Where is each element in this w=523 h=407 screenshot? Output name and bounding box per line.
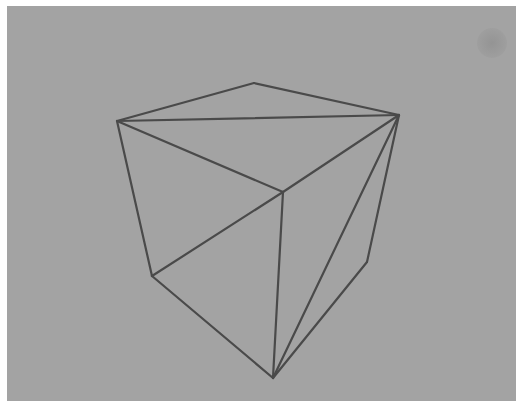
3d-viewport[interactable] xyxy=(7,6,516,401)
cube-edge xyxy=(152,192,283,276)
cube-edge xyxy=(273,115,399,378)
cube-edge xyxy=(254,83,399,115)
cube-edge xyxy=(273,192,283,378)
cube-edge xyxy=(152,276,273,378)
cube-edge xyxy=(117,121,152,276)
cube-edge xyxy=(117,83,254,121)
wireframe-cube xyxy=(7,6,516,401)
cube-edge xyxy=(367,115,399,262)
cube-edge xyxy=(117,115,399,121)
cube-edge xyxy=(117,121,283,192)
